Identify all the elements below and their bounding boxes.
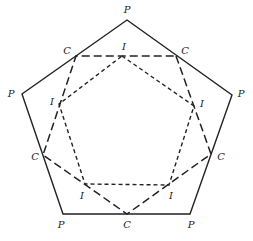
vertex-label-c: C <box>31 151 39 162</box>
vertex-label-c: C <box>123 219 131 230</box>
vertex-labels: PPPPPCCCCCIIIII <box>7 4 245 230</box>
inner-pentagon-i <box>59 56 194 185</box>
nested-pentagons-diagram: PPPPPCCCCCIIIII <box>0 0 253 241</box>
vertex-label-p: P <box>57 219 65 230</box>
vertex-label-i: I <box>79 190 85 201</box>
vertex-label-c: C <box>181 45 189 56</box>
middle-pentagon-c <box>43 56 211 214</box>
vertex-label-p: P <box>123 4 131 15</box>
vertex-label-c: C <box>63 45 71 56</box>
vertex-label-i: I <box>121 41 127 52</box>
vertex-label-p: P <box>7 88 15 99</box>
vertex-label-p: P <box>237 88 245 99</box>
vertex-label-i: I <box>199 98 205 109</box>
vertex-label-i: I <box>168 190 174 201</box>
vertex-label-p: P <box>187 219 195 230</box>
vertex-label-i: I <box>49 96 55 107</box>
vertex-label-c: C <box>217 151 225 162</box>
